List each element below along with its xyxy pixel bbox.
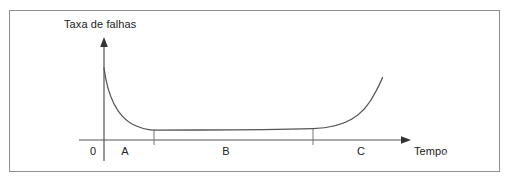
y-axis-title: Taxa de falhas xyxy=(64,18,136,30)
cropped-caption-text xyxy=(10,178,190,186)
x-axis-title: Tempo xyxy=(414,145,448,157)
phase-label-b: B xyxy=(217,145,235,157)
x-axis-origin-label: 0 xyxy=(84,145,102,157)
phase-label-c: C xyxy=(352,145,370,157)
phase-label-a: A xyxy=(116,145,134,157)
scan-artifact-speck xyxy=(444,152,447,155)
figure-root: Taxa de falhas Tempo 0 A B C xyxy=(0,0,518,187)
